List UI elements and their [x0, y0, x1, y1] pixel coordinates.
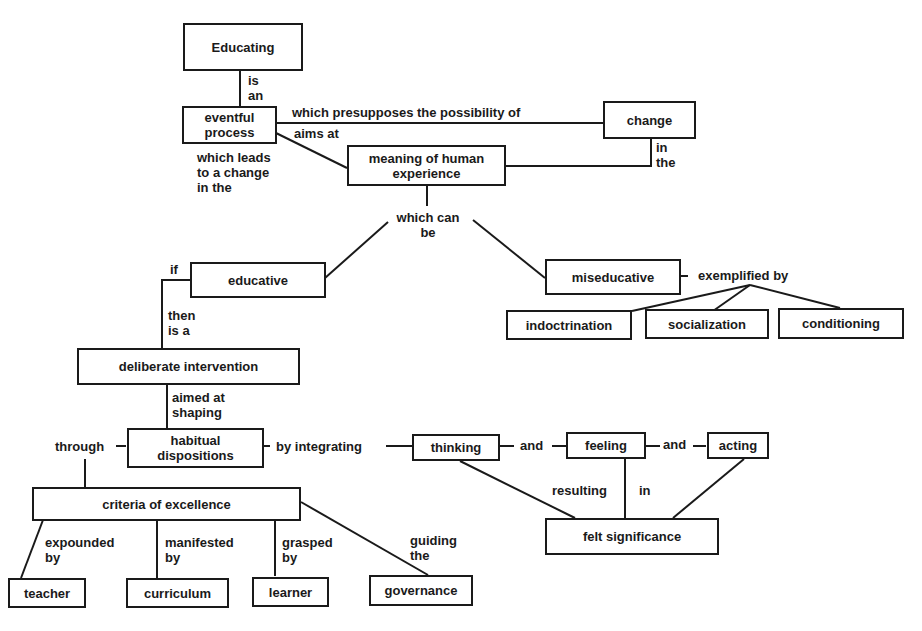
node-change[interactable]: change: [603, 101, 696, 139]
link-resulting: resulting: [552, 483, 607, 498]
link-by-integrating: by integrating: [276, 439, 362, 454]
link-leads-to-change: which leads to a change in the: [197, 150, 271, 195]
link-manifested-by: manifested by: [165, 535, 234, 565]
link-presupposes: which presupposes the possibility of: [292, 105, 520, 120]
node-felt-significance[interactable]: felt significance: [545, 518, 719, 555]
node-governance[interactable]: governance: [369, 575, 473, 606]
link-exemplified-by: exemplified by: [698, 268, 788, 283]
link-guiding-the: guiding the: [410, 533, 457, 563]
concept-map: Educating eventful process change meanin…: [0, 0, 922, 631]
node-thinking[interactable]: thinking: [412, 434, 500, 461]
link-aimed-at-shaping: aimed at shaping: [172, 390, 225, 420]
link-through: through: [55, 439, 104, 454]
link-is-an: is an: [248, 73, 263, 103]
node-educative[interactable]: educative: [190, 262, 326, 298]
link-which-can-be: which can be: [384, 210, 472, 240]
link-and-feeling-acting: and: [663, 437, 686, 452]
node-curriculum[interactable]: curriculum: [126, 578, 229, 608]
node-educating[interactable]: Educating: [183, 23, 303, 71]
link-grasped-by: grasped by: [282, 535, 333, 565]
link-if: if: [170, 262, 178, 277]
node-miseducative[interactable]: miseducative: [545, 259, 681, 295]
node-learner[interactable]: learner: [252, 577, 329, 607]
node-criteria-of-excellence[interactable]: criteria of excellence: [32, 487, 301, 521]
node-conditioning[interactable]: conditioning: [778, 308, 904, 339]
node-indoctrination[interactable]: indoctrination: [506, 310, 632, 340]
node-feeling[interactable]: feeling: [566, 432, 646, 459]
link-then-is-a: then is a: [168, 308, 195, 338]
node-socialization[interactable]: socialization: [645, 309, 769, 339]
node-meaning-of-human-experience[interactable]: meaning of human experience: [347, 145, 506, 186]
node-habitual-dispositions[interactable]: habitual dispositions: [127, 428, 264, 468]
link-and-thinking-feeling: and: [520, 438, 543, 453]
link-in-the: in the: [656, 140, 676, 170]
link-expounded-by: expounded by: [45, 535, 114, 565]
link-aims-at: aims at: [294, 126, 339, 141]
node-eventful-process[interactable]: eventful process: [182, 106, 277, 144]
node-teacher[interactable]: teacher: [8, 578, 86, 608]
link-in: in: [639, 483, 651, 498]
node-acting[interactable]: acting: [707, 432, 769, 459]
node-deliberate-intervention[interactable]: deliberate intervention: [77, 348, 300, 385]
